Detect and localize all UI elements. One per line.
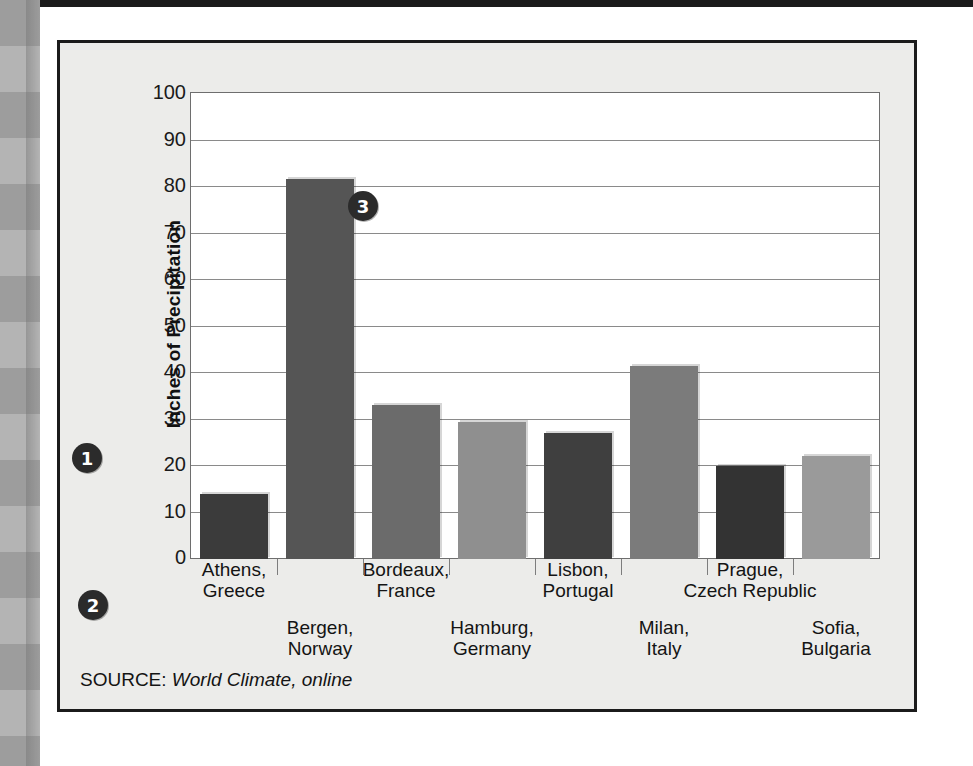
category-label-line1: Athens, — [202, 559, 266, 580]
y-axis-tick-label: 100 — [122, 81, 186, 104]
bar — [630, 366, 697, 559]
y-axis-tick-label: 80 — [122, 174, 186, 197]
bar-slot — [363, 93, 449, 559]
x-axis-category-label: Lisbon,Portugal — [543, 559, 614, 602]
bar — [458, 422, 525, 559]
bar-slot — [535, 93, 621, 559]
category-label-line2: Portugal — [543, 580, 614, 601]
bar — [286, 179, 353, 559]
category-label-line2: Norway — [287, 638, 354, 659]
category-label-line2: Bulgaria — [801, 638, 871, 659]
bar — [372, 405, 439, 559]
page-top-rule — [40, 0, 973, 7]
bar-slot — [707, 93, 793, 559]
category-label-line2: Germany — [450, 638, 533, 659]
category-label-line2: Greece — [202, 580, 266, 601]
bar-series — [191, 93, 879, 559]
source-line: SOURCE: World Climate, online — [80, 669, 352, 691]
x-axis-category-label: Athens,Greece — [202, 559, 266, 602]
y-axis-title: Inches of Precipitation — [163, 220, 185, 428]
category-label-line2: Czech Republic — [683, 580, 816, 601]
y-axis-tick-label: 90 — [122, 127, 186, 150]
category-label-line1: Prague, — [683, 559, 816, 580]
bar — [544, 433, 611, 559]
y-axis-tick-label: 10 — [122, 499, 186, 522]
y-axis-tick-label: 20 — [122, 453, 186, 476]
category-label-line1: Bergen, — [287, 617, 354, 638]
bar-slot — [191, 93, 277, 559]
source-prefix: SOURCE: — [80, 669, 167, 690]
figure-container: 1009080706050403020100 Inches of Precipi… — [57, 40, 917, 712]
callout-marker-2: 2 — [78, 590, 108, 620]
category-label-line1: Hamburg, — [450, 617, 533, 638]
x-axis-category-label: Hamburg,Germany — [450, 617, 533, 660]
source-title: World Climate, online — [172, 669, 353, 690]
category-label-line1: Bordeaux, — [363, 559, 450, 580]
x-axis-category-label: Milan,Italy — [639, 617, 690, 660]
bar-slot — [277, 93, 363, 559]
category-label-line1: Sofia, — [801, 617, 871, 638]
category-label-line2: France — [363, 580, 450, 601]
category-label-line1: Lisbon, — [543, 559, 614, 580]
bar — [716, 466, 783, 559]
x-axis-category-label: Bordeaux,France — [363, 559, 450, 602]
callout-marker-3: 3 — [348, 191, 378, 221]
category-label-line1: Milan, — [639, 617, 690, 638]
callout-marker-1: 1 — [72, 443, 102, 473]
bar — [200, 494, 267, 559]
category-label-line2: Italy — [639, 638, 690, 659]
plot-wrapper: 1009080706050403020100 Inches of Precipi… — [118, 88, 888, 560]
x-axis-category-label: Sofia,Bulgaria — [801, 617, 871, 660]
bar — [802, 456, 869, 559]
bar-slot — [449, 93, 535, 559]
scanner-edge-artifact — [0, 0, 40, 766]
bar-slot — [621, 93, 707, 559]
x-axis-category-label: Bergen,Norway — [287, 617, 354, 660]
y-axis-tick-label: 0 — [122, 546, 186, 569]
bar-slot — [793, 93, 879, 559]
x-axis-category-label: Prague,Czech Republic — [683, 559, 816, 602]
